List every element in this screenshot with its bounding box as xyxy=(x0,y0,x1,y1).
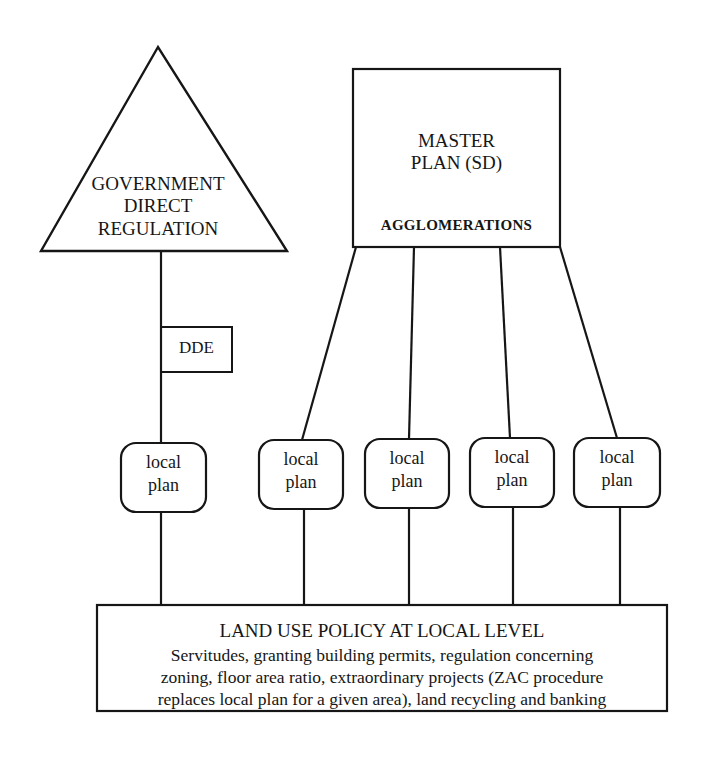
local-plan-text: local xyxy=(574,446,660,469)
local-plan-text: plan xyxy=(121,474,206,497)
government-label-line: DIRECT xyxy=(58,195,258,217)
master-plan-label-line: MASTER xyxy=(353,130,560,152)
local-plan-label-4: local plan xyxy=(470,446,554,493)
local-plan-text: local xyxy=(365,447,449,470)
land-use-title: LAND USE POLICY AT LOCAL LEVEL xyxy=(97,620,667,642)
master-to-localplan3-line xyxy=(409,247,414,439)
government-label-line: GOVERNMENT xyxy=(58,173,258,195)
local-plan-text: plan xyxy=(365,470,449,493)
local-plan-text: local xyxy=(121,451,206,474)
government-label-line: REGULATION xyxy=(58,218,258,240)
agglomerations-label: AGGLOMERATIONS xyxy=(353,217,560,235)
master-plan-label: MASTER PLAN (SD) xyxy=(353,130,560,175)
land-use-description: Servitudes, granting building permits, r… xyxy=(97,645,667,711)
local-plan-label-2: local plan xyxy=(259,448,343,495)
master-to-localplan4-line xyxy=(500,247,510,438)
government-label: GOVERNMENT DIRECT REGULATION xyxy=(58,173,258,240)
local-plan-label-1: local plan xyxy=(121,451,206,498)
local-plan-text: plan xyxy=(470,469,554,492)
master-to-localplan2-line xyxy=(302,247,356,440)
local-plan-text: plan xyxy=(574,469,660,492)
dde-label: DDE xyxy=(161,338,232,358)
land-use-line: Servitudes, granting building permits, r… xyxy=(97,645,667,667)
local-plan-text: plan xyxy=(259,471,343,494)
local-plan-text: local xyxy=(470,446,554,469)
master-plan-label-line: PLAN (SD) xyxy=(353,152,560,174)
local-plan-label-5: local plan xyxy=(574,446,660,493)
master-to-localplan5-line xyxy=(560,247,617,438)
local-plan-text: local xyxy=(259,448,343,471)
land-use-line: replaces local plan for a given area), l… xyxy=(97,689,667,711)
local-plan-label-3: local plan xyxy=(365,447,449,494)
land-use-line: zoning, floor area ratio, extraordinary … xyxy=(97,667,667,689)
